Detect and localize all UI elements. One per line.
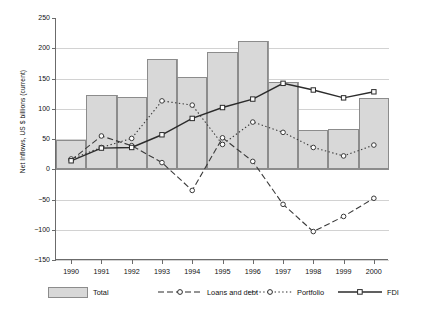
chart-figure: Net Inflows, US $ billions (current) 250… bbox=[0, 0, 423, 309]
data-point-marker bbox=[281, 81, 285, 85]
x-tick-label: 2000 bbox=[354, 267, 394, 276]
legend-swatch-line bbox=[158, 287, 202, 297]
data-point-marker bbox=[281, 130, 286, 135]
y-tick-label: 150 bbox=[22, 75, 50, 82]
data-point-marker bbox=[251, 97, 255, 101]
data-point-marker bbox=[190, 116, 194, 120]
x-tick bbox=[313, 260, 314, 264]
y-tick-label: 200 bbox=[22, 44, 50, 51]
y-tick-label: 250 bbox=[22, 14, 50, 21]
y-tick-label: −50 bbox=[22, 196, 50, 203]
data-point-marker bbox=[341, 214, 346, 219]
legend-item-loans-and-debt[interactable]: Loans and debt bbox=[158, 282, 258, 302]
data-point-marker bbox=[311, 229, 316, 234]
data-point-marker bbox=[69, 159, 73, 163]
data-point-marker bbox=[372, 143, 377, 148]
y-axis-title: Net Inflows, US $ billions (current) bbox=[19, 42, 26, 202]
x-tick bbox=[71, 260, 72, 264]
x-tick bbox=[101, 260, 102, 264]
data-point-marker bbox=[190, 103, 195, 108]
data-point-marker bbox=[311, 145, 316, 150]
data-point-marker bbox=[220, 142, 225, 147]
y-tick-label: 50 bbox=[22, 135, 50, 142]
x-tick bbox=[192, 260, 193, 264]
data-point-marker bbox=[99, 146, 103, 150]
legend-item-portfolio[interactable]: Portfolio bbox=[248, 282, 324, 302]
data-point-marker bbox=[220, 105, 224, 109]
y-tick-label: 100 bbox=[22, 105, 50, 112]
data-point-marker bbox=[160, 133, 164, 137]
x-tick bbox=[253, 260, 254, 264]
data-point-marker bbox=[129, 145, 133, 149]
data-point-marker bbox=[160, 99, 165, 104]
data-point-marker bbox=[372, 90, 376, 94]
data-point-marker bbox=[129, 136, 134, 141]
x-tick bbox=[223, 260, 224, 264]
x-tick bbox=[374, 260, 375, 264]
x-tick bbox=[283, 260, 284, 264]
x-tick bbox=[344, 260, 345, 264]
line-series-overlay bbox=[56, 18, 389, 260]
data-point-marker bbox=[341, 96, 345, 100]
legend-label: Total bbox=[93, 288, 109, 297]
legend-swatch-line bbox=[338, 287, 382, 297]
x-tick bbox=[132, 260, 133, 264]
legend-label: FDI bbox=[387, 288, 399, 297]
legend-item-fdi[interactable]: FDI bbox=[338, 282, 399, 302]
plot-area: 250200150100500−50−100−150 1990199119921… bbox=[55, 18, 388, 260]
data-point-marker bbox=[99, 134, 104, 139]
line-loans-and-debt bbox=[71, 136, 374, 232]
legend-item-total[interactable]: Total bbox=[48, 282, 109, 302]
data-point-marker bbox=[281, 202, 286, 207]
data-point-marker bbox=[311, 88, 315, 92]
y-tick bbox=[52, 260, 56, 261]
line-fdi bbox=[71, 83, 374, 160]
y-tick-label: 0 bbox=[22, 165, 50, 172]
data-point-marker bbox=[372, 196, 377, 201]
legend-swatch-line bbox=[248, 287, 292, 297]
data-point-marker bbox=[341, 154, 346, 159]
data-point-marker bbox=[250, 120, 255, 125]
x-tick bbox=[162, 260, 163, 264]
data-point-marker bbox=[190, 188, 195, 193]
y-tick-label: −100 bbox=[22, 226, 50, 233]
legend-swatch-bar bbox=[48, 287, 88, 298]
legend-label: Portfolio bbox=[297, 288, 324, 297]
data-point-marker bbox=[220, 135, 225, 140]
data-point-marker bbox=[250, 159, 255, 164]
y-tick-label: −150 bbox=[22, 256, 50, 263]
chart-legend: TotalLoans and debtPortfolioFDI bbox=[48, 282, 418, 304]
data-point-marker bbox=[160, 160, 165, 165]
